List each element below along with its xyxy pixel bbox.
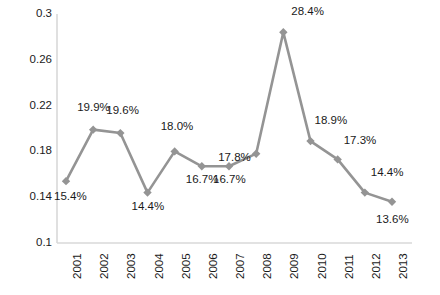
data-point-label: 17.8% xyxy=(218,152,251,164)
data-point-marker xyxy=(252,149,260,157)
data-point-label: 18.0% xyxy=(161,121,194,133)
x-axis-tick-label: 2005 xyxy=(181,253,193,279)
x-axis-tick-label: 2004 xyxy=(154,253,166,279)
x-axis-tick-label: 2001 xyxy=(72,253,84,279)
data-point-label: 18.9% xyxy=(315,115,348,127)
x-axis-tick-label: 2008 xyxy=(262,253,274,279)
data-point-marker xyxy=(388,198,396,206)
data-point-label: 17.3% xyxy=(344,135,377,147)
chart-plot-area xyxy=(0,0,440,295)
data-point-label: 14.4% xyxy=(132,201,165,213)
data-point-marker xyxy=(116,129,124,137)
data-point-label: 14.4% xyxy=(371,167,404,179)
x-axis-tick-label: 2003 xyxy=(126,253,138,279)
data-point-label: 19.9% xyxy=(77,102,110,114)
data-point-marker xyxy=(225,162,233,170)
axis-lines xyxy=(57,14,412,243)
x-axis-tick-label: 2006 xyxy=(208,253,220,279)
data-point-label: 16.7% xyxy=(213,174,246,186)
line-chart: 0.10.140.180.220.260.3 20012002200320042… xyxy=(0,0,440,295)
x-axis-tick-label: 2009 xyxy=(289,253,301,279)
data-point-marker xyxy=(279,28,287,36)
x-axis-tick-label: 2010 xyxy=(317,253,329,279)
x-axis-tick-label: 2011 xyxy=(344,254,356,279)
x-axis-tick-label: 2002 xyxy=(99,253,111,279)
data-point-label: 15.4% xyxy=(54,191,87,203)
x-axis-tick-label: 2013 xyxy=(398,253,410,279)
data-point-label: 28.4% xyxy=(291,6,324,18)
data-point-label: 13.6% xyxy=(376,214,409,226)
data-point-label: 19.6% xyxy=(106,105,139,117)
x-axis-tick-label: 2012 xyxy=(371,253,383,279)
x-axis-tick-label: 2007 xyxy=(235,253,247,279)
